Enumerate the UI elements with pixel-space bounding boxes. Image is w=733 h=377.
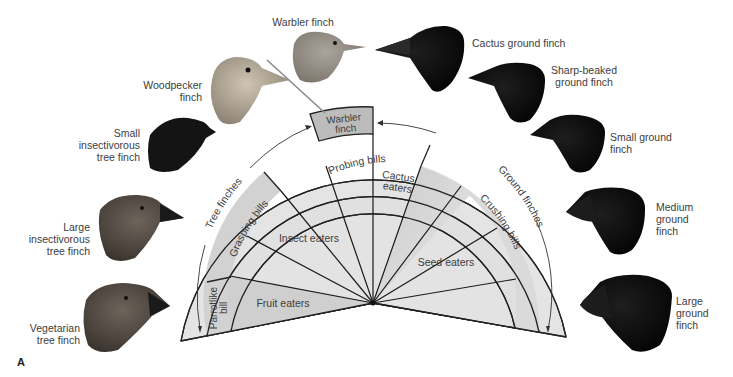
small-ground-finch-head-icon (530, 115, 605, 173)
large-insect-label-line: tree finch (10, 245, 90, 257)
small-insectivorous-tree-finch-label: Small insectivorous tree finch (60, 127, 140, 163)
woodpecker-label-line: finch (120, 91, 202, 103)
large-insect-label-line: Large (10, 221, 90, 233)
large-ground-label-line: finch (676, 319, 731, 331)
large-insectivorous-tree-finch-head-icon (99, 195, 184, 261)
sharp-beaked-ground-finch-label: Sharp-beaked ground finch (546, 64, 622, 88)
vegetarian-tree-finch-label: Vegetarian tree finch (5, 322, 80, 346)
large-ground-label-line: ground (676, 307, 731, 319)
warbler-finch-label: Warbler finch (258, 16, 348, 28)
seed-eaters-label: Seed eaters (418, 256, 475, 268)
warbler-finch-head-icon (293, 32, 366, 83)
vegetarian-label-line: Vegetarian (5, 322, 80, 334)
medium-ground-finch-head-icon (566, 188, 645, 255)
medium-ground-label-line: finch (656, 225, 726, 237)
sharp-beaked-ground-finch-head-icon (468, 63, 545, 123)
small-insectivorous-tree-finch-head-icon (148, 118, 216, 172)
insect-eaters-label: Insect eaters (279, 232, 339, 244)
large-insect-label-line: insectivorous (10, 233, 90, 245)
woodpecker-finch-label: Woodpecker finch (120, 79, 202, 103)
sharp-beaked-label-line: Sharp-beaked (546, 64, 622, 76)
medium-ground-label-line: ground (656, 213, 726, 225)
cactus-ground-finch-label: Cactus ground finch (472, 37, 592, 49)
warbler-box-label-2: finch (335, 122, 357, 135)
large-insectivorous-tree-finch-label: Large insectivorous tree finch (10, 221, 90, 257)
probing-bills-label: Probing bills (326, 152, 385, 176)
medium-ground-finch-label: Medium ground finch (656, 201, 726, 237)
small-insect-label-line: insectivorous (60, 139, 140, 151)
finch-adaptive-radiation-diagram: Tree finches Ground finches Probing bill… (0, 0, 733, 377)
woodpecker-finch-head-icon (211, 57, 290, 124)
sharp-beaked-label-line: ground finch (546, 76, 622, 88)
medium-ground-label-line: Medium (656, 201, 726, 213)
panel-letter: A (17, 356, 25, 368)
small-ground-label-line: finch (610, 143, 700, 155)
small-ground-finch-label: Small ground finch (610, 131, 700, 155)
large-ground-finch-head-icon (580, 275, 672, 352)
svg-text:Probing bills: Probing bills (326, 152, 385, 176)
small-insect-label-line: Small (60, 127, 140, 139)
large-ground-finch-label: Large ground finch (676, 295, 731, 331)
small-insect-label-line: tree finch (60, 151, 140, 163)
cactus-ground-finch-head-icon (375, 26, 464, 92)
parrotlike-bill-label-2: bill (218, 302, 229, 314)
vegetarian-tree-finch-head-icon (83, 283, 170, 352)
vegetarian-label-line: tree finch (5, 334, 80, 346)
small-ground-label-line: Small ground (610, 131, 700, 143)
fruit-eaters-label: Fruit eaters (256, 297, 309, 309)
woodpecker-label-line: Woodpecker (120, 79, 202, 91)
large-ground-label-line: Large (676, 295, 731, 307)
